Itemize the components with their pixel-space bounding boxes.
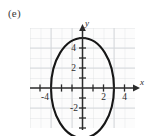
x-axis-label: x bbox=[139, 77, 144, 87]
part-label: (e) bbox=[8, 8, 21, 19]
y-tick-label-2: 2 bbox=[71, 63, 76, 73]
coordinate-plot: x y -4 2 4 4 2 -2 bbox=[22, 22, 143, 134]
y-axis-label: y bbox=[84, 18, 89, 28]
x-tick-label-4: 4 bbox=[122, 92, 127, 102]
x-tick-label-neg4: -4 bbox=[41, 92, 49, 102]
y-tick-label-neg2: -2 bbox=[70, 103, 78, 113]
x-tick-label-2: 2 bbox=[101, 92, 106, 102]
y-tick-label-4: 4 bbox=[71, 43, 76, 53]
figure-container: (e) bbox=[0, 0, 152, 136]
graph-panel: x y -4 2 4 4 2 -2 bbox=[30, 28, 135, 128]
